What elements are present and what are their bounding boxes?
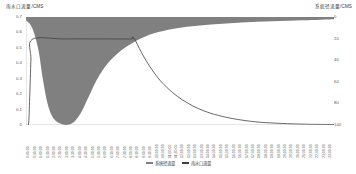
x-axis-tick-label: 0:00:00: [26, 146, 30, 158]
x-axis-tick-label: 0:30:00: [33, 146, 37, 158]
x-axis-tick-label: 16:00:00: [232, 144, 236, 158]
x-axis-tick-label: 3:00:00: [65, 146, 69, 158]
x-axis-tick-label: 9:00:00: [142, 146, 146, 158]
x-axis-tick-label: 13:30:00: [200, 144, 204, 158]
x-axis-tick-label: 6:30:00: [110, 146, 114, 158]
left-axis-tick-label: 0.7: [8, 14, 22, 19]
legend-item[interactable]: 系统径流量: [146, 160, 175, 166]
chart-legend: 系统径流量雨水口流量: [0, 160, 356, 166]
x-axis-tick-label: 11:30:00: [174, 145, 178, 158]
left-axis-tick-label: 0.5: [8, 45, 22, 50]
x-axis-tick-label: 19:00:00: [270, 144, 274, 158]
left-axis-tick-label: 0: [8, 122, 22, 127]
right-axis-tick-label: 20: [334, 36, 350, 41]
x-axis-tick-label: 20:30:00: [289, 144, 293, 158]
x-axis-tick-label: 4:30:00: [84, 146, 88, 158]
x-axis-tick-label: 5:30:00: [97, 146, 101, 158]
x-axis-tick-label: 14:30:00: [212, 144, 216, 158]
left-axis-ticks: 0.70.60.50.40.30.20.10: [4, 0, 22, 174]
x-axis-tick-label: 9:30:00: [148, 146, 152, 158]
legend-item[interactable]: 雨水口流量: [182, 160, 211, 166]
plot-area: [26, 17, 334, 125]
x-axis-tick-label: 8:00:00: [129, 146, 133, 158]
right-axis-tick-label: 40: [334, 57, 350, 62]
x-axis-tick-label: 13:00:00: [193, 144, 197, 158]
x-axis-tick-label: 22:00:00: [309, 144, 313, 158]
x-axis-tick-label: 14:00:00: [206, 144, 210, 158]
x-axis-tick-label: 12:30:00: [187, 144, 191, 158]
x-axis-tick-label: 17:30:00: [251, 144, 255, 158]
x-axis-tick-label: 20:00:00: [283, 144, 287, 158]
plot-svg: [26, 17, 334, 125]
x-axis-tick-label: 2:00:00: [52, 146, 56, 158]
x-axis-tick-label: 21:00:00: [296, 144, 300, 158]
x-axis-tick-label: 18:30:00: [264, 144, 268, 158]
x-axis-tick-label: 11:00:00: [168, 145, 172, 158]
x-axis-tick-label: 19:30:00: [277, 144, 281, 158]
right-axis-tick-label: 0: [334, 14, 350, 19]
right-axis-tick-label: 60: [334, 79, 350, 84]
x-axis-tick-label: 12:00:00: [180, 144, 184, 158]
legend-label: 系统径流量: [155, 160, 175, 166]
x-axis-tick-label: 1:00:00: [39, 146, 43, 158]
x-axis-tick-label: 16:30:00: [238, 144, 242, 158]
x-axis-tick-label: 15:30:00: [225, 144, 229, 158]
x-axis-tick-label: 7:30:00: [123, 146, 127, 158]
x-axis-tick-label: 4:00:00: [78, 146, 82, 158]
runoff-chart: 雨水口流量/CMS 系统径流量/CMS 0.70.60.50.40.30.20.…: [0, 0, 356, 174]
x-axis-tick-label: 23:30:00: [328, 144, 332, 158]
left-axis-tick-label: 0.3: [8, 76, 22, 81]
right-axis-ticks: 020406080100: [334, 0, 354, 174]
x-axis-tick-label: 22:30:00: [315, 144, 319, 158]
x-axis-tick-label: 15:00:00: [219, 144, 223, 158]
x-axis-tick-label: 21:30:00: [302, 144, 306, 158]
x-axis-labels: 0:00:000:30:001:00:001:30:002:00:002:30:…: [26, 125, 334, 158]
legend-swatch-icon: [182, 162, 189, 163]
x-axis-tick-label: 18:00:00: [257, 144, 261, 158]
right-axis-tick-label: 100: [334, 122, 350, 127]
x-axis-tick-label: 6:00:00: [103, 146, 107, 158]
legend-label: 雨水口流量: [191, 160, 211, 166]
x-axis-tick-label: 5:00:00: [91, 146, 95, 158]
x-axis-tick-label: 10:00:00: [155, 144, 159, 158]
left-axis-tick-label: 0.1: [8, 107, 22, 112]
right-axis-tick-label: 80: [334, 100, 350, 105]
x-axis-tick-label: 8:30:00: [135, 146, 139, 158]
x-axis-tick-label: 2:30:00: [58, 146, 62, 158]
left-axis-tick-label: 0.4: [8, 60, 22, 65]
x-axis-tick-label: 7:00:00: [116, 146, 120, 158]
x-axis-tick-label: 10:30:00: [161, 144, 165, 158]
legend-swatch-icon: [146, 162, 153, 165]
left-axis-tick-label: 0.6: [8, 29, 22, 34]
x-axis-tick-label: 23:00:00: [322, 144, 326, 158]
x-axis-tick-label: 3:30:00: [71, 146, 75, 158]
x-axis-tick-label: 1:30:00: [46, 146, 50, 158]
left-axis-tick-label: 0.2: [8, 91, 22, 96]
x-axis-tick-label: 17:00:00: [245, 144, 249, 158]
